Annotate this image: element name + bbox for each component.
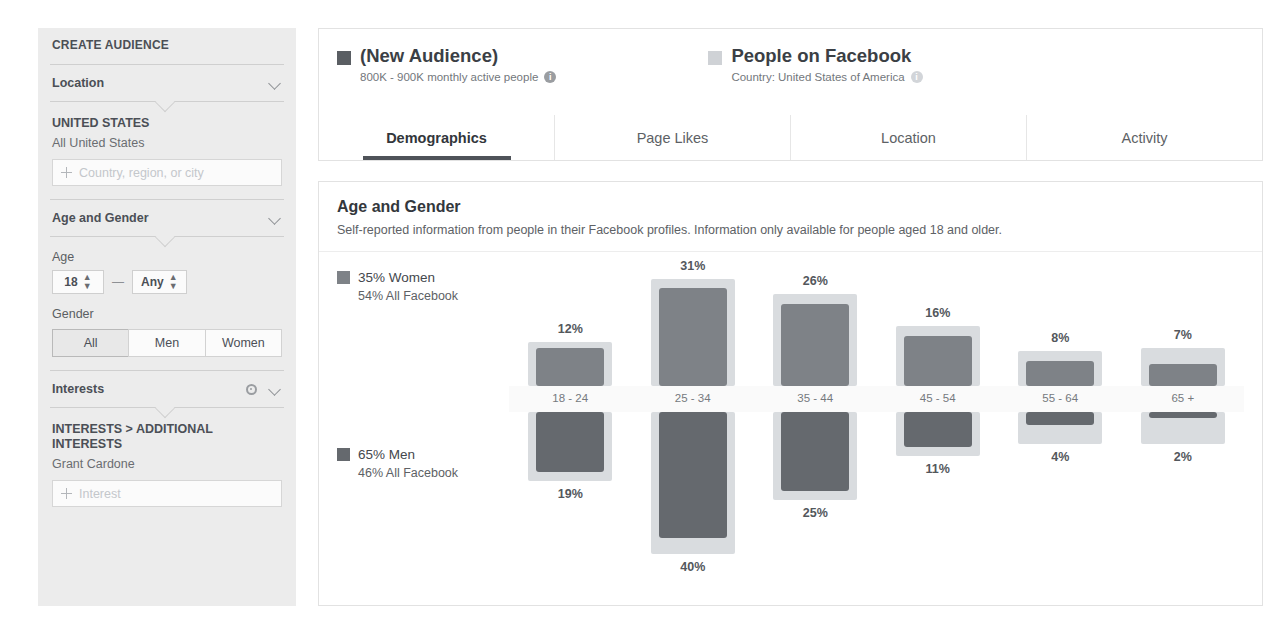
chart-half-men: 19% [509, 412, 632, 554]
chart-category-label: 45 - 54 [877, 392, 1000, 404]
sidebar-section-age-and-gender-label: Age and Gender [52, 211, 149, 225]
chart-half-men: 11% [877, 412, 1000, 554]
chart-category-label: 35 - 44 [754, 392, 877, 404]
sidebar-title: CREATE AUDIENCE [52, 28, 282, 64]
chart-half-men: 4% [999, 412, 1122, 554]
chevron-down-icon[interactable] [269, 385, 282, 393]
chart-value-label-men: 4% [999, 450, 1122, 464]
chart-bar-women[interactable] [1149, 364, 1217, 386]
sidebar-section-location-label: Location [52, 76, 104, 90]
chart-bar-men[interactable] [904, 412, 972, 447]
age-range-row: 18 ▲▼ — Any ▲▼ [52, 270, 282, 294]
chart-half-men: 2% [1122, 412, 1245, 554]
chart-value-label-women: 26% [754, 274, 877, 288]
chart-value-label-women: 7% [1122, 328, 1245, 342]
stepper-icon[interactable]: ▲▼ [169, 273, 178, 291]
gender-segmented-control: All Men Women [52, 329, 282, 357]
legend-swatch-dark-icon [337, 51, 351, 65]
legend-men-secondary: 46% All Facebook [337, 466, 458, 480]
chart-group: 31%40%25 - 34 [632, 244, 755, 592]
interest-input-placeholder: Interest [79, 487, 121, 501]
location-input[interactable]: Country, region, or city [52, 159, 282, 186]
chart-bar-men[interactable] [1149, 412, 1217, 418]
audience-insights-page: CREATE AUDIENCE Location UNITED STATES A… [0, 0, 1283, 634]
chart-category-label: 18 - 24 [509, 392, 632, 404]
legend-men-primary: 65% Men [358, 447, 415, 462]
chart-group: 26%25%35 - 44 [754, 244, 877, 592]
location-input-placeholder: Country, region, or city [79, 166, 204, 180]
tab-page-likes[interactable]: Page Likes [554, 115, 790, 160]
chart-half-women: 26% [754, 244, 877, 386]
comparison-subtitle: Country: United States of America [731, 71, 904, 83]
tab-location[interactable]: Location [790, 115, 1026, 160]
chart-value-label-men: 11% [877, 462, 1000, 476]
chart-bar-women[interactable] [659, 288, 727, 386]
age-max-value: Any [141, 275, 164, 289]
chart-bar-women[interactable] [904, 336, 972, 386]
interests-value: Grant Cardone [52, 452, 282, 471]
tab-bar: Demographics Page Likes Location Activit… [319, 115, 1262, 160]
chart-group: 8%4%55 - 64 [999, 244, 1122, 592]
chart-bar-men[interactable] [781, 412, 849, 491]
chart-value-label-men: 25% [754, 506, 877, 520]
tab-activity[interactable]: Activity [1026, 115, 1262, 160]
section-description: Self-reported information from people in… [319, 216, 1262, 237]
chart-group: 12%19%18 - 24 [509, 244, 632, 592]
audience-subtitle-row: 800K - 900K monthly active people i [360, 71, 556, 83]
chart-bar-men[interactable] [1026, 412, 1094, 425]
legend-women: 35% Women 54% All Facebook [337, 270, 458, 303]
chevron-down-icon[interactable] [269, 79, 282, 87]
age-range-separator: — [112, 275, 124, 289]
comparison-title: People on Facebook [731, 46, 922, 66]
comparison-header: People on Facebook Country: United State… [708, 46, 922, 83]
chart-bar-women[interactable] [781, 304, 849, 386]
tab-demographics[interactable]: Demographics [319, 115, 554, 160]
chart-half-women: 31% [632, 244, 755, 386]
info-icon[interactable]: i [544, 71, 556, 83]
chart-value-label-women: 16% [877, 306, 1000, 320]
audience-headers: (New Audience) 800K - 900K monthly activ… [319, 29, 1262, 83]
divider-with-notch [50, 407, 284, 408]
chart-half-women: 8% [999, 244, 1122, 386]
gender-option-women[interactable]: Women [205, 329, 282, 357]
age-min-select[interactable]: 18 ▲▼ [52, 270, 104, 294]
create-audience-sidebar: CREATE AUDIENCE Location UNITED STATES A… [38, 28, 296, 606]
chart-value-label-women: 31% [632, 259, 755, 273]
info-icon[interactable]: i [911, 71, 923, 83]
main-panel: (New Audience) 800K - 900K monthly activ… [318, 28, 1263, 606]
age-max-select[interactable]: Any ▲▼ [132, 270, 187, 294]
header-card: (New Audience) 800K - 900K monthly activ… [318, 28, 1263, 161]
legend-women-primary: 35% Women [358, 270, 435, 285]
chart-group: 16%11%45 - 54 [877, 244, 1000, 592]
legend-swatch-light-icon [708, 51, 722, 65]
stepper-icon[interactable]: ▲▼ [83, 273, 92, 291]
chart-bar-women[interactable] [1026, 361, 1094, 386]
plus-icon [61, 167, 72, 178]
chart-half-women: 7% [1122, 244, 1245, 386]
chart-bar-women[interactable] [536, 348, 604, 386]
chart-group: 7%2%65 + [1122, 244, 1245, 592]
interest-input[interactable]: Interest [52, 480, 282, 507]
gear-icon[interactable] [246, 384, 257, 395]
legend-women-secondary: 54% All Facebook [337, 289, 458, 303]
chevron-down-icon[interactable] [269, 214, 282, 222]
plus-icon [61, 488, 72, 499]
age-gender-chart: 12%19%18 - 2431%40%25 - 3426%25%35 - 441… [509, 244, 1244, 592]
chart-category-label: 65 + [1122, 392, 1245, 404]
gender-option-men[interactable]: Men [128, 329, 205, 357]
chart-value-label-men: 40% [632, 560, 755, 574]
chart-category-label: 55 - 64 [999, 392, 1122, 404]
chart-half-women: 12% [509, 244, 632, 386]
audience-header: (New Audience) 800K - 900K monthly activ… [337, 46, 556, 83]
chart-bar-men[interactable] [536, 412, 604, 472]
sidebar-section-interests-label: Interests [52, 382, 104, 396]
audience-title: (New Audience) [360, 46, 556, 66]
chart-groups: 12%19%18 - 2431%40%25 - 3426%25%35 - 441… [509, 244, 1244, 592]
chart-value-label-women: 8% [999, 331, 1122, 345]
chart-value-label-men: 2% [1122, 450, 1245, 464]
gender-label: Gender [52, 294, 282, 327]
chart-bar-men[interactable] [659, 412, 727, 538]
gender-option-all[interactable]: All [52, 329, 129, 357]
legend-men: 65% Men 46% All Facebook [337, 447, 458, 480]
legend-swatch-women-icon [337, 271, 350, 284]
